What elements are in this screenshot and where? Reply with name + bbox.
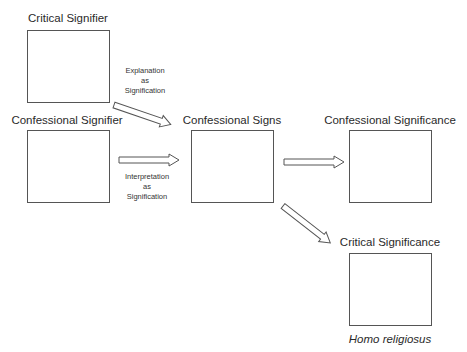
critical-signifier-box [27,30,110,103]
confessional-signifier-box [27,130,110,203]
edge-label-line: Signification [125,86,165,96]
explanation-edge-label: Explanation as Signification [125,66,165,96]
edge-label-line: Signification [125,192,169,202]
confessional-significance-box [349,130,432,203]
arrow-to-critical-significance [279,201,334,247]
arrow-interpretation [119,154,179,166]
confessional-signs-label: Confessional Signs [183,114,281,126]
edge-label-line: as [125,76,165,86]
critical-significance-box [349,253,432,326]
critical-significance-label: Critical Significance [340,236,440,248]
confessional-significance-label: Confessional Significance [324,114,456,126]
edge-label-line: Explanation [125,66,165,76]
arrow-to-confessional-significance [284,156,344,168]
confessional-signs-box [191,130,274,203]
confessional-signifier-label: Confessional Signifier [11,114,122,126]
interpretation-edge-label: Interpretation as Signification [125,172,169,202]
homo-religiosus-caption: Homo religiosus [349,333,431,345]
edge-label-line: Interpretation [125,172,169,182]
critical-signifier-label: Critical Signifier [28,12,108,24]
edge-label-line: as [125,182,169,192]
